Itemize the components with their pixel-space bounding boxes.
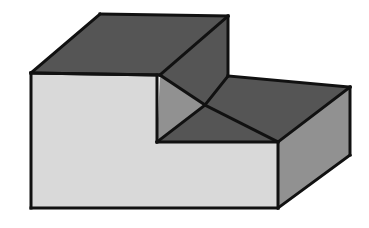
stepped-block-illustration	[0, 0, 369, 228]
edge-top-face-top-edge	[100, 14, 228, 16]
figure-canvas: Ambiguous stepped block Line drawing of …	[0, 0, 369, 228]
edge-upper-front-edge	[31, 73, 157, 75]
